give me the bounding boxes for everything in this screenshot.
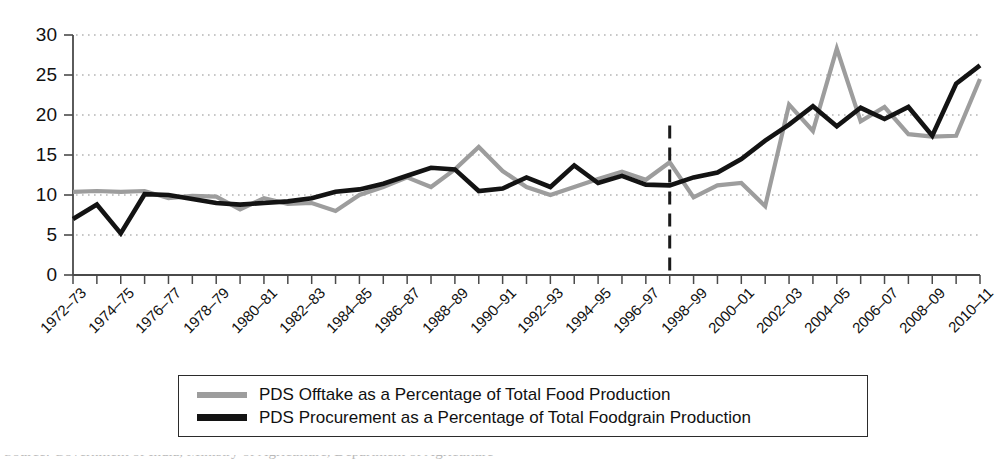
svg-text:15: 15: [36, 144, 57, 165]
series-lines: [73, 49, 980, 234]
svg-text:30: 30: [36, 24, 57, 45]
svg-text:10: 10: [36, 184, 57, 205]
chart-legend: PDS Offtake as a Percentage of Total Foo…: [178, 375, 868, 437]
legend-swatch-procurement: [197, 414, 247, 421]
legend-item-procurement: PDS Procurement as a Percentage of Total…: [197, 406, 867, 429]
grid-lines: [76, 35, 980, 235]
legend-label-offtake: PDS Offtake as a Percentage of Total Foo…: [259, 386, 670, 403]
chart-figure: 051015202530 1972–731974–751976–771978–7…: [0, 0, 1007, 476]
legend-item-offtake: PDS Offtake as a Percentage of Total Foo…: [197, 383, 867, 406]
figure-caption-text: Source: Government of India, Ministry of…: [4, 455, 493, 460]
plot-area: 051015202530: [0, 0, 1007, 290]
y-axis: 051015202530: [36, 24, 73, 285]
legend-label-procurement: PDS Procurement as a Percentage of Total…: [259, 409, 751, 426]
legend-swatch-offtake: [197, 392, 247, 398]
svg-text:20: 20: [36, 104, 57, 125]
svg-text:25: 25: [36, 64, 57, 85]
figure-caption-clipped: Source: Government of India, Ministry of…: [0, 455, 1007, 476]
x-axis-tick-labels: 1972–731974–751976–771978–791980–811982–…: [0, 278, 1007, 368]
line-chart-svg: 051015202530: [0, 0, 1007, 290]
svg-text:5: 5: [46, 224, 57, 245]
